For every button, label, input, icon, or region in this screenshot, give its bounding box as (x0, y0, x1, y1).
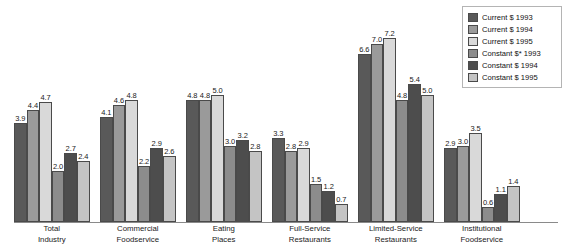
legend-swatch (468, 61, 478, 70)
bar-value-label: 4.8 (187, 92, 197, 100)
bar-value-label: 1.2 (324, 183, 334, 191)
bar[interactable]: 3.5 (469, 133, 482, 222)
bar[interactable]: 2.4 (77, 161, 90, 222)
bar[interactable]: 0.7 (335, 204, 348, 222)
bar[interactable]: 2.8 (285, 151, 298, 222)
bar-slot: 3.2 (236, 27, 249, 222)
bar-value-label: 2.9 (445, 140, 455, 148)
bar[interactable]: 5.4 (408, 84, 421, 222)
bar[interactable]: 1.4 (507, 186, 520, 222)
bar-slot: 4.8 (186, 27, 199, 222)
bar-value-label: 2.0 (53, 163, 63, 171)
bar[interactable]: 7.0 (371, 44, 384, 223)
bar-slot: 1.5 (310, 27, 323, 222)
bar-value-label: 2.2 (139, 158, 149, 166)
bar-slot: 6.6 (358, 27, 371, 222)
bar-value-label: 5.0 (422, 87, 432, 95)
bar[interactable]: 4.8 (125, 100, 138, 222)
bar-value-label: 1.4 (508, 178, 518, 186)
bar-slot: 5.0 (211, 27, 224, 222)
bar-value-label: 7.0 (372, 36, 382, 44)
bar[interactable]: 5.0 (211, 95, 224, 223)
bar[interactable]: 3.3 (272, 138, 285, 222)
bar-value-label: 2.7 (66, 145, 76, 153)
category-label-line2: Foodservice (461, 235, 503, 246)
category-label-line2: Foodservice (117, 235, 159, 246)
bar[interactable]: 2.9 (297, 148, 310, 222)
bar[interactable]: 3.0 (224, 146, 237, 223)
bar-slot: 2.7 (64, 27, 77, 222)
bar-slot: 2.9 (297, 27, 310, 222)
bar[interactable]: 4.4 (27, 110, 40, 222)
bar[interactable]: 1.5 (310, 184, 323, 222)
bar-slot: 3.9 (14, 27, 27, 222)
bar[interactable]: 1.2 (322, 191, 335, 222)
legend-swatch (468, 73, 478, 82)
bar-value-label: 3.5 (470, 125, 480, 133)
bar[interactable]: 4.7 (39, 102, 52, 222)
bar-slot: 5.4 (408, 27, 421, 222)
bar-group: 4.14.64.82.22.92.6CommercialFoodservice (100, 27, 176, 222)
legend-item[interactable]: Constant $ 1995 (468, 71, 557, 83)
bar[interactable]: 2.9 (150, 148, 163, 222)
legend-item[interactable]: Constant $* 1993 (468, 47, 557, 59)
bar-group: 6.67.07.24.85.45.0Limited-ServiceRestaur… (358, 27, 434, 222)
bar-value-label: 3.0 (458, 138, 468, 146)
bar[interactable]: 2.9 (444, 148, 457, 222)
category-label-line1: Institutional (461, 224, 503, 235)
bar[interactable]: 3.2 (236, 140, 249, 222)
bar-group: 3.32.82.91.51.20.7Full-ServiceRestaurant… (272, 27, 348, 222)
axis-baseline (14, 222, 558, 223)
legend-item[interactable]: Current $ 1995 (468, 35, 557, 47)
category-label: CommercialFoodservice (117, 224, 159, 245)
bar[interactable]: 2.0 (52, 171, 65, 222)
bar[interactable]: 2.6 (163, 156, 176, 222)
legend-item[interactable]: Constant $ 1994 (468, 59, 557, 71)
bar-value-label: 3.2 (238, 132, 248, 140)
bar-value-label: 2.8 (286, 143, 296, 151)
category-label: InstitutionalFoodservice (461, 224, 503, 245)
bar-value-label: 4.6 (114, 97, 124, 105)
legend-item[interactable]: Current $ 1994 (468, 23, 557, 35)
bar-value-label: 2.4 (78, 153, 88, 161)
bar-group-bars: 3.94.44.72.02.72.4 (14, 27, 90, 222)
bar[interactable]: 4.8 (186, 100, 199, 222)
bar[interactable]: 2.8 (249, 151, 262, 222)
legend-swatch (468, 13, 478, 22)
legend-item[interactable]: Current $ 1993 (468, 11, 557, 23)
bar[interactable]: 4.8 (396, 100, 409, 222)
bar-slot: 5.0 (421, 27, 434, 222)
bar-chart: 3.94.44.72.02.72.4TotalIndustry4.14.64.8… (0, 0, 566, 249)
bar[interactable]: 1.1 (494, 194, 507, 222)
legend-label: Current $ 1993 (482, 13, 533, 22)
bar-slot: 2.4 (77, 27, 90, 222)
bar-value-label: 3.0 (225, 138, 235, 146)
bar[interactable]: 6.6 (358, 54, 371, 222)
bar-value-label: 4.8 (200, 92, 210, 100)
bar-value-label: 4.1 (101, 109, 111, 117)
legend-label: Constant $ 1994 (482, 61, 538, 70)
bar[interactable]: 4.6 (113, 105, 126, 222)
bar-value-label: 2.9 (152, 140, 162, 148)
category-label: Full-ServiceRestaurants (289, 224, 331, 245)
bar-group-bars: 3.32.82.91.51.20.7 (272, 27, 348, 222)
category-label-line1: Total (38, 224, 66, 235)
bar[interactable]: 3.9 (14, 123, 27, 222)
bar[interactable]: 4.1 (100, 117, 113, 222)
bar[interactable]: 4.8 (199, 100, 212, 222)
bar-slot: 4.4 (27, 27, 40, 222)
bar[interactable]: 0.6 (482, 207, 495, 222)
bar[interactable]: 2.2 (138, 166, 151, 222)
bar[interactable]: 3.0 (457, 146, 470, 223)
bar-group-bars: 6.67.07.24.85.45.0 (358, 27, 434, 222)
bar[interactable]: 5.0 (421, 95, 434, 223)
bar-group-bars: 4.84.85.03.03.22.8 (186, 27, 262, 222)
bar-slot: 4.1 (100, 27, 113, 222)
bar[interactable]: 2.7 (64, 153, 77, 222)
bar-value-label: 6.6 (359, 46, 369, 54)
legend-label: Constant $* 1993 (482, 49, 541, 58)
bar-value-label: 5.4 (410, 76, 420, 84)
bar[interactable]: 7.2 (383, 38, 396, 222)
bar-slot: 4.8 (125, 27, 138, 222)
chart-legend: Current $ 1993Current $ 1994Current $ 19… (462, 6, 562, 88)
